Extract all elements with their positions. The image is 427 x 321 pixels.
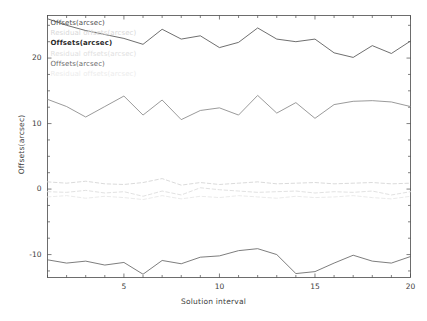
x-tick-label: 15 — [302, 282, 328, 291]
x-tick-label: 10 — [206, 282, 232, 291]
series-line — [48, 249, 411, 275]
y-tick-label: 0 — [16, 184, 42, 193]
series-line — [48, 95, 411, 119]
y-tick-label: 20 — [16, 53, 42, 62]
x-tick-label: 20 — [398, 282, 424, 291]
legend-entry: Offsets(arcsec) — [51, 19, 105, 27]
y-axis-label: Offsets(arcsec) — [17, 100, 26, 190]
y-tick-label: -10 — [16, 250, 42, 259]
y-tick-label: 10 — [16, 119, 42, 128]
series-line — [48, 188, 411, 197]
chart-figure — [0, 0, 427, 321]
series-line — [48, 196, 411, 200]
x-axis-label: Solution interval — [0, 297, 427, 306]
series-line — [48, 179, 411, 186]
legend-entry: Offsets(arcsec) — [51, 39, 113, 47]
legend-entry: Offsets(arcsec) — [51, 60, 105, 68]
legend-entry: Residual offsets(arcsec) — [51, 70, 137, 78]
legend-entry: Residual offsets(arcsec) — [51, 29, 137, 37]
legend-entry: Residual offsets(arcsec) — [51, 50, 137, 58]
chart-canvas — [0, 0, 427, 321]
x-tick-label: 5 — [111, 282, 137, 291]
